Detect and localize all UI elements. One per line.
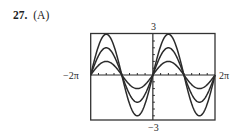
graph-window	[0, 0, 242, 135]
